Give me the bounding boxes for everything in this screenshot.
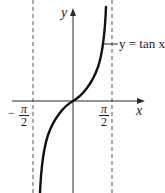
pi: π [18,103,30,115]
pi-over-2-label: π 2 [98,103,110,129]
x-axis-label: x [136,104,142,118]
two: 2 [98,116,110,129]
neg-pi-over-2-label: π 2 [18,103,30,129]
curve-label: y = tan x [119,37,165,50]
two: 2 [18,116,30,129]
y-axis-arrow-icon [70,8,76,16]
neg-sign: − [8,107,15,119]
y-axis-label: y [61,6,67,20]
pi: π [98,103,110,115]
tan-graph [0,0,165,193]
